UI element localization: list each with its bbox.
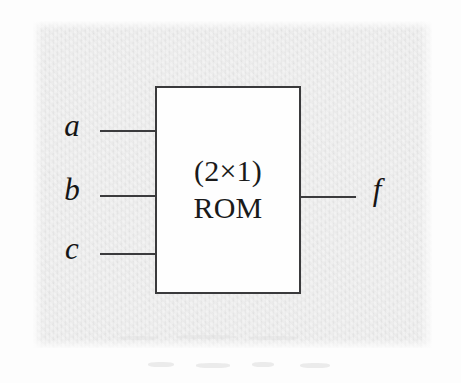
input-label-a: a [52,108,92,144]
paper-edge-fade-right [420,21,433,348]
input-wire-c [100,253,156,255]
paper-edge-fade-bottom [33,339,432,349]
input-wire-a [100,130,156,132]
output-wire-f [300,196,356,198]
paper-edge-fade-top [33,21,432,30]
figure-canvas: a b c f (2×1) ROM [0,0,461,383]
input-label-b: b [52,172,92,208]
output-label-f: f [357,172,397,208]
rom-device-label: ROM [194,190,263,227]
rom-block-text: (2×1) ROM [155,86,301,294]
paper-edge-fade-left [33,21,43,348]
input-wire-b [100,195,156,197]
bleed-through-mark [196,363,230,368]
bleed-through-mark [118,336,158,340]
rom-size-label: (2×1) [194,153,262,190]
bleed-through-mark [252,362,274,367]
bleed-through-mark [148,362,174,367]
bleed-through-mark [250,336,298,340]
bleed-through-mark [300,363,330,368]
input-label-c: c [52,231,92,267]
bleed-through-mark [176,335,236,339]
